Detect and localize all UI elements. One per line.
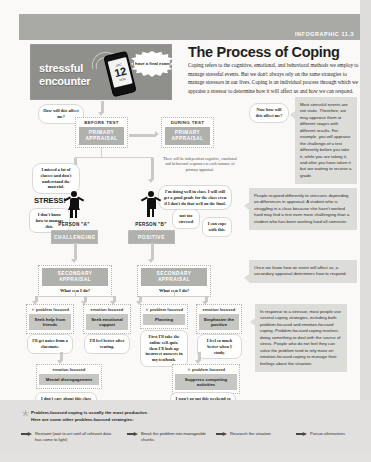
- bottom-edge-strip: [0, 452, 371, 462]
- star-icon: [187, 368, 191, 372]
- coping-1-action: Seek help from friends: [29, 314, 71, 330]
- coping-3-kind: problem focused: [143, 307, 185, 312]
- arrowhead-a-to-secondary: [71, 259, 77, 263]
- coping-4-quote: I feel so much better when I study.: [197, 334, 242, 359]
- arrowhead-b-to-secondary: [148, 259, 154, 263]
- stage-before-test: BEFORE TEST PRIMARY APPRAISAL: [75, 117, 128, 148]
- secondary-left-band: SECONDARY APPRAISAL: [42, 268, 108, 286]
- bubble-now-emphasis: Now: [257, 107, 265, 112]
- intro-paragraph: Coping refers to the cognitive, emotiona…: [188, 61, 360, 95]
- legend-headline-line1: Problem-focused coping is usually the mo…: [31, 410, 331, 417]
- coping-5-kind: emotion focused: [39, 367, 99, 372]
- star-icon: [31, 308, 35, 312]
- bubble-missed-classes: I missed a lot of classes and don't unde…: [32, 163, 80, 194]
- before-test-caption: BEFORE TEST: [79, 120, 124, 125]
- bubble-doing-well: I'm doing well in class. I will still ge…: [158, 185, 232, 210]
- coping-box-4: emotion focused Emphasize the positive: [196, 304, 242, 334]
- legend-headline: Problem-focused coping is usually the mo…: [31, 410, 331, 423]
- during-test-caption: DURING TEST: [165, 120, 210, 125]
- top-band: INFOGRAPHIC 11.3: [19, 14, 360, 40]
- side-note-appraisal-differences: People respond differently to stressors …: [249, 188, 357, 230]
- phone-icon: DEC 12 MON: [103, 51, 136, 98]
- stressful-encounter-image: stressful encounter DEC 12 MON I have a …: [30, 44, 172, 100]
- legend-item-1-label: Restraint (wait to act until all relevan…: [35, 431, 111, 442]
- coping-3-action: Planning: [143, 314, 185, 325]
- before-test-band: PRIMARY APPRAISAL: [79, 127, 124, 145]
- right-edge-strip: [360, 0, 371, 462]
- during-test-footnote: There will be independent cognitive, emo…: [160, 157, 240, 173]
- arrow-a-to-secondary: [74, 243, 77, 260]
- coping-6-kind: problem focused: [175, 367, 237, 372]
- star-icon: [21, 409, 30, 418]
- bubble-now-affect: Now how will this affect me?: [249, 103, 289, 123]
- during-test-band: PRIMARY APPRAISAL: [165, 127, 210, 145]
- final-exam-burst: I have a final exam!: [131, 51, 173, 77]
- page-title: The Process of Coping: [188, 44, 360, 60]
- bubble-not-stressed: not too stressed: [172, 209, 200, 229]
- side-note-coping-strategies: In response to a stressor, most people u…: [255, 304, 347, 372]
- coping-4-kind: emotion focused: [199, 307, 239, 312]
- connector-before-horizontal: [75, 157, 153, 158]
- person-b-figure: [141, 191, 161, 219]
- connector-secondary-right-split: [140, 296, 206, 297]
- connector-secondary-left-split: [36, 296, 114, 297]
- secondary-right-band: SECONDARY APPRAISAL: [141, 268, 207, 286]
- legend-item-3-label: Research the situation: [230, 431, 271, 436]
- arrow-b-to-secondary: [151, 243, 154, 260]
- side-note-secondary-appraisal: Once we know how an event will affect us…: [249, 260, 357, 283]
- arrow-icon: [21, 432, 32, 436]
- stage-during-test: DURING TEST PRIMARY APPRAISAL: [161, 117, 214, 148]
- legend-item-2-label: Break the problem into manageable chunks: [141, 431, 206, 442]
- hero-label-line2: encounter: [39, 75, 90, 88]
- coping-box-1: problem focused Seek help from friends: [26, 304, 74, 334]
- infographic-tag: INFOGRAPHIC 11.3: [295, 31, 354, 37]
- hero-label-line1: stressful: [39, 62, 90, 75]
- coping-box-5: emotion focused Mental disengagement: [36, 364, 102, 389]
- bubble-can-cope: I can cope with this.: [202, 217, 232, 237]
- legend-item-4-label: Pursue alternatives: [310, 431, 345, 436]
- star-icon: [145, 308, 149, 312]
- hero-label: stressful encounter: [39, 62, 90, 87]
- coping-3-quote: First I'll take the online self-quiz, th…: [140, 330, 188, 367]
- coping-2-quote: I'll feel better after venting.: [84, 334, 130, 354]
- phone-day: MON: [119, 77, 126, 82]
- coping-5-action: Mental disengagement: [39, 374, 99, 385]
- stress-word: STRESS!: [34, 196, 66, 205]
- person-a-figure: [64, 191, 84, 219]
- arrow-icon: [216, 432, 227, 436]
- legend-item-4: Pursue alternatives: [310, 431, 368, 437]
- legend-footer: Problem-focused coping is usually the mo…: [0, 400, 371, 452]
- arrowhead-hero-to-before: [98, 112, 104, 116]
- phone-screen: DEC 12 MON: [108, 57, 133, 88]
- coping-1-quote: I'll get notes from a classmate.: [27, 334, 73, 354]
- arrow-before-to-during: [129, 134, 156, 137]
- legend-item-1: Restraint (wait to act until all relevan…: [35, 431, 113, 443]
- side-note-appraisal-stages: Most stressful events are not static. Th…: [295, 97, 357, 184]
- coping-2-kind: emotion focused: [86, 307, 128, 312]
- coping-2-action: Seek emotional support: [86, 314, 128, 330]
- coping-4-action: Emphasize the positive: [199, 314, 239, 330]
- person-b-label: PERSON "B": [131, 222, 171, 227]
- arrow-to-person-b: [151, 158, 154, 180]
- infographic-page: INFOGRAPHIC 11.3 The Process of Coping C…: [0, 0, 371, 462]
- legend-headline-line2: Here are some other problem-focused stra…: [31, 417, 331, 424]
- coping-box-6: problem focused Suppress competing activ…: [172, 364, 240, 394]
- person-b-appraisal-band: POSITIVE: [128, 230, 175, 244]
- arrow-icon: [127, 432, 138, 436]
- arrowhead-to-person-b: [148, 179, 154, 183]
- coping-6-action: Suppress competing activities: [175, 374, 237, 390]
- coping-box-2: emotion focused Seek emotional support: [83, 304, 131, 334]
- person-a-label: PERSON "A": [54, 222, 94, 227]
- arrow-icon: [296, 432, 307, 436]
- coping-1-kind: problem focused: [29, 307, 71, 312]
- arrowhead-before-to-during: [155, 131, 159, 137]
- legend-item-3: Research the situation: [230, 431, 296, 437]
- coping-box-3: problem focused Planning: [140, 304, 188, 329]
- person-a-appraisal-band: CHALLENGING: [51, 230, 98, 244]
- legend-item-2: Break the problem into manageable chunks: [141, 431, 211, 443]
